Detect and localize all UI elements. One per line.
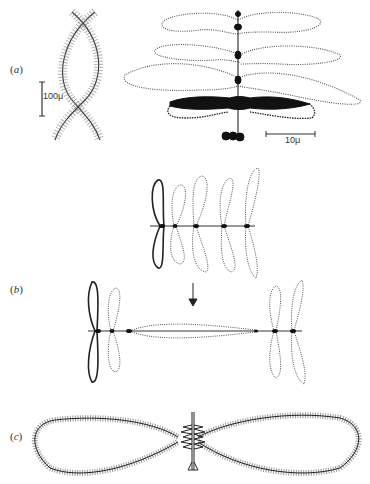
bivalent-row-top — [150, 168, 259, 278]
chromosome-figure: (a) (b) (c) 100μ 10μ — [0, 0, 370, 484]
lampbrush-loops — [124, 12, 360, 104]
central-puff — [181, 412, 205, 470]
figure-drawing — [0, 0, 370, 484]
figure-eight-chromosome — [35, 415, 359, 473]
chromosome-axis-a — [170, 10, 310, 141]
down-arrow-icon — [189, 283, 197, 306]
scale-bar-10-micron — [266, 131, 315, 137]
lampbrush-bivalent — [39, 12, 100, 140]
